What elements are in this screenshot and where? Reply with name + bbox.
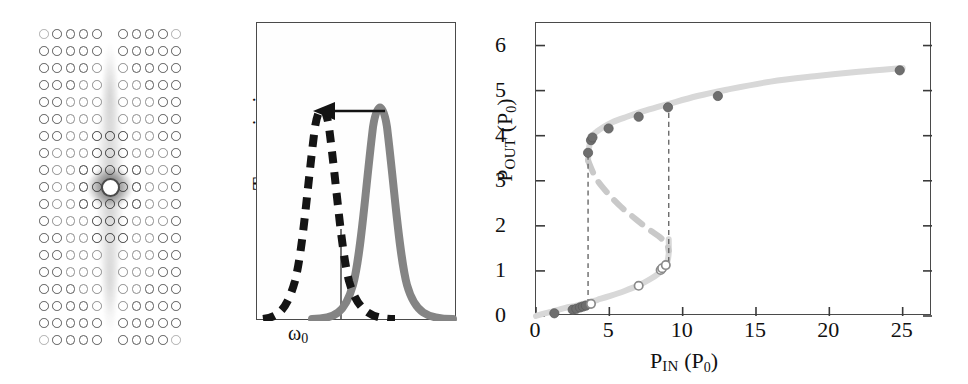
omega-subscript: 0 <box>301 331 308 346</box>
lattice-hole <box>92 335 102 345</box>
lattice-hole <box>52 29 62 39</box>
lattice-hole <box>79 216 89 226</box>
lattice-hole <box>158 131 168 141</box>
lattice-hole <box>158 233 168 243</box>
lattice-hole <box>171 318 181 328</box>
lattice-hole <box>52 63 62 73</box>
lattice-hole <box>92 80 102 90</box>
lattice-hole <box>66 46 76 56</box>
lattice-hole <box>105 165 115 175</box>
lattice-hole <box>158 335 168 345</box>
data-point-increasing <box>634 112 643 121</box>
lattice-hole <box>52 165 62 175</box>
lattice-hole <box>171 148 181 158</box>
lattice-hole <box>158 250 168 260</box>
lattice-hole <box>171 29 181 39</box>
y-tick-label: 5 <box>482 79 506 101</box>
data-point-decreasing <box>662 261 670 269</box>
lattice-hole <box>132 301 142 311</box>
lattice-hole <box>79 148 89 158</box>
bistability-plot <box>536 23 932 316</box>
lattice-hole <box>79 80 89 90</box>
lattice-hole <box>145 46 155 56</box>
lattice-hole <box>171 250 181 260</box>
x-tick-label: 20 <box>808 319 848 341</box>
lattice-hole <box>66 63 76 73</box>
lattice-hole <box>118 233 128 243</box>
lattice-hole <box>171 233 181 243</box>
lattice-hole <box>92 97 102 107</box>
lattice-hole <box>132 250 142 260</box>
lattice-hole <box>39 233 49 243</box>
lattice-hole <box>118 29 128 39</box>
lattice-hole <box>145 148 155 158</box>
panel-bistability: POUT (P0) 0123456 0510152025 PIN (P0) <box>480 0 968 384</box>
lattice-hole <box>132 80 142 90</box>
x-tick-label: 0 <box>515 319 555 341</box>
lattice-hole <box>66 335 76 345</box>
lattice-hole <box>39 29 49 39</box>
lattice-hole <box>79 97 89 107</box>
lattice-hole <box>171 199 181 209</box>
lattice-hole <box>105 199 115 209</box>
lattice-hole <box>79 29 89 39</box>
y-tick-label: 3 <box>482 169 506 191</box>
lattice-hole <box>171 63 181 73</box>
lattice-hole <box>52 80 62 90</box>
lower-branch-theory <box>536 239 669 316</box>
lattice-hole <box>132 199 142 209</box>
lattice-hole <box>118 148 128 158</box>
pin-unit-main: P <box>692 348 704 373</box>
lattice-hole <box>52 284 62 294</box>
data-point-decreasing <box>587 300 595 308</box>
lattice-hole <box>118 165 128 175</box>
lattice-hole <box>39 148 49 158</box>
lattice-hole <box>132 63 142 73</box>
lattice-hole <box>39 318 49 328</box>
pin-subscript: IN <box>662 358 678 374</box>
lattice-hole <box>158 29 168 39</box>
cavity-defect-hole <box>101 178 120 197</box>
lattice-hole <box>105 216 115 226</box>
lattice-hole <box>132 216 142 226</box>
lattice-hole <box>92 63 102 73</box>
pin-main: P <box>650 348 662 373</box>
lattice-hole <box>118 318 128 328</box>
lattice-hole <box>92 199 102 209</box>
lattice-hole <box>92 216 102 226</box>
photonic-crystal-lattice <box>34 22 186 352</box>
lattice-hole <box>171 114 181 124</box>
data-point-increasing <box>583 148 592 157</box>
lattice-hole <box>66 182 76 192</box>
panel-photonic-crystal <box>0 0 228 384</box>
lattice-hole <box>171 131 181 141</box>
lattice-hole <box>145 97 155 107</box>
lattice-hole <box>39 80 49 90</box>
lattice-hole <box>132 97 142 107</box>
lattice-hole <box>92 131 102 141</box>
data-point-increasing <box>550 309 559 318</box>
lattice-hole <box>79 199 89 209</box>
lattice-hole <box>66 216 76 226</box>
lattice-hole <box>132 46 142 56</box>
lattice-hole <box>92 301 102 311</box>
lattice-hole <box>66 114 76 124</box>
data-point-increasing <box>588 133 597 142</box>
data-point-increasing <box>663 103 672 112</box>
lattice-hole <box>132 318 142 328</box>
lattice-hole <box>39 114 49 124</box>
lattice-hole <box>118 267 128 277</box>
lattice-hole <box>171 267 181 277</box>
lattice-hole <box>39 182 49 192</box>
pin-axis-label: PIN (P0) <box>650 348 718 376</box>
lattice-hole <box>79 182 89 192</box>
lattice-hole <box>158 301 168 311</box>
lattice-hole <box>52 114 62 124</box>
lattice-hole <box>39 250 49 260</box>
lattice-hole <box>52 131 62 141</box>
lattice-hole <box>158 165 168 175</box>
y-tick-label: 1 <box>482 259 506 281</box>
lattice-hole <box>118 301 128 311</box>
x-tick-label: 25 <box>882 319 922 341</box>
lattice-hole <box>79 335 89 345</box>
